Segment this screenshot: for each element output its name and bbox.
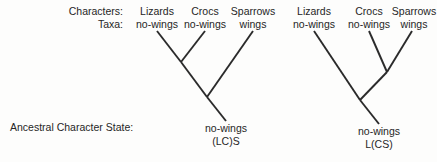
branch-right-lizards [314,31,360,100]
branch-right-root-stem [360,100,379,124]
branch-left-sparrows [207,31,253,97]
branch-left-root-stem [207,97,226,121]
branch-right-sparrows [387,31,412,72]
root-label-left-tree: no-wings (LC)S [205,122,247,147]
topology-grouping-notation: L(CS) [358,138,400,151]
branch-right-crocs [369,31,387,72]
left-tree-branches [157,31,253,121]
topology-grouping-notation: (LC)S [205,135,247,148]
ancestral-state-value: no-wings [205,122,247,135]
branch-left-internal [181,62,207,97]
branch-left-lizards [157,31,181,62]
cladogram-figure: Characters: Taxa: Ancestral Character St… [0,0,437,162]
branch-right-internal [360,72,387,100]
root-label-right-tree: no-wings L(CS) [358,125,400,150]
right-tree-branches [314,31,412,124]
branch-left-crocs [181,31,205,62]
ancestral-state-value: no-wings [358,125,400,138]
